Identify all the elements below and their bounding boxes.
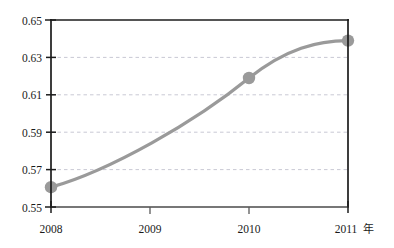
x-axis-tick-labels: 2008 2009 2010 2011 年 (40, 222, 374, 235)
y-axis-label-0-61: 0.61 (22, 89, 42, 101)
x-axis-label-2009: 2009 (139, 223, 162, 235)
x-axis-label-2011: 2011 (335, 223, 358, 235)
line-chart-figure: 0.65 0.63 0.61 0.59 0.57 0.55 2008 2009 … (0, 0, 394, 248)
x-axis-unit-label: 年 (363, 222, 374, 235)
y-axis-label-0-65: 0.65 (22, 15, 42, 27)
x-axis-label-2010: 2010 (238, 223, 261, 235)
y-axis-label-0-55: 0.55 (22, 202, 42, 214)
y-axis-label-0-63: 0.63 (22, 52, 42, 64)
chart-canvas: 0.65 0.63 0.61 0.59 0.57 0.55 2008 2009 … (0, 0, 394, 248)
y-axis-tick-labels: 0.65 0.63 0.61 0.59 0.57 0.55 (22, 15, 42, 214)
y-axis-label-0-59: 0.59 (22, 127, 42, 139)
x-axis-label-2008: 2008 (40, 223, 63, 235)
y-axis-label-0-57: 0.57 (22, 164, 42, 176)
data-point-2010 (243, 72, 255, 84)
